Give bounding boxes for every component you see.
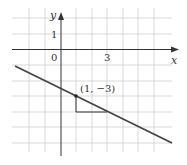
point-label: (1, −3) — [80, 83, 115, 94]
y-axis-label: y — [49, 9, 57, 22]
y-tick-label: 1 — [51, 29, 57, 40]
x-axis-label: x — [171, 54, 178, 67]
y-axis-arrow-icon — [58, 12, 64, 20]
coordinate-graph: y x 1 0 3 (1, −3) — [0, 0, 187, 165]
point-marker — [74, 94, 78, 98]
graph-line — [15, 66, 172, 143]
x-axis-arrow-icon — [171, 47, 179, 53]
origin-label: 0 — [51, 52, 57, 63]
x-tick-label: 3 — [104, 52, 110, 63]
